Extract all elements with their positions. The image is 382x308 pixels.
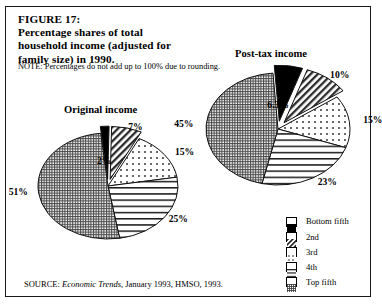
pie-label-bottom-fifth: 2% — [97, 155, 111, 166]
legend-swatch-fine-grid — [286, 277, 297, 287]
figure-title-line-2: household income (adjusted for — [18, 39, 233, 52]
legend-label: 4th — [306, 263, 317, 272]
chart-title-original-income: Original income — [64, 104, 137, 115]
figure-title: FIGURE 17:Percentage shares of totalhous… — [18, 13, 233, 66]
figure-frame: FIGURE 17:Percentage shares of totalhous… — [5, 6, 371, 297]
legend-label: Top fifth — [306, 278, 336, 287]
pie-label-2nd: 10% — [330, 69, 349, 80]
legend-swatch-diagonal-hatch — [286, 232, 297, 242]
figure-title-line-1: Percentage shares of total — [18, 26, 233, 39]
legend-swatch-solid-black — [286, 217, 297, 227]
legend-item-solid-black: Bottom fifth — [286, 215, 370, 228]
pie-label-4th: 25% — [169, 213, 188, 224]
pie-label-top-fifth: 45% — [174, 118, 193, 129]
legend-item-dots: 3rd — [286, 245, 370, 258]
legend-swatch-dots — [286, 247, 297, 257]
legend-label: Bottom fifth — [306, 217, 349, 226]
source-line: SOURCE: Economic Trends, January 1993, H… — [24, 279, 223, 289]
source-suffix: , January 1993, HMSO, 1993. — [121, 279, 223, 289]
legend-swatch-horizontal-lines — [286, 262, 297, 272]
pie-label-4th: 23% — [318, 176, 337, 187]
pie-chart-post-tax-income: 6.3%10%15%23%45% — [198, 65, 358, 193]
legend-label: 2nd — [306, 233, 319, 242]
legend-item-diagonal-hatch: 2nd — [286, 230, 370, 243]
pie-slice-4th — [108, 177, 178, 238]
legend-item-fine-grid: Top fifth — [286, 276, 370, 289]
pie-label-3rd: 15% — [363, 114, 382, 125]
pie-chart-original-income: 2%7%15%25%51% — [28, 125, 188, 247]
legend-item-horizontal-lines: 4th — [286, 261, 370, 274]
source-publication: Economic Trends — [62, 279, 121, 289]
pie-label-bottom-fifth: 6.3% — [267, 99, 289, 110]
source-prefix: SOURCE: — [24, 279, 62, 289]
legend: Bottom fifth2nd3rd4thTop fifth — [286, 215, 370, 291]
pie-label-3rd: 15% — [175, 146, 194, 157]
chart-title-post-tax-income: Post-tax income — [235, 48, 307, 59]
figure-note: NOTE: Percentages do not add up to 100% … — [18, 62, 223, 72]
figure-title-line-0: FIGURE 17: — [18, 13, 233, 26]
pie-label-2nd: 7% — [128, 121, 142, 132]
pie-slice-top-fifth — [206, 73, 278, 183]
pie-label-top-fifth: 51% — [9, 186, 28, 197]
legend-label: 3rd — [306, 248, 317, 257]
